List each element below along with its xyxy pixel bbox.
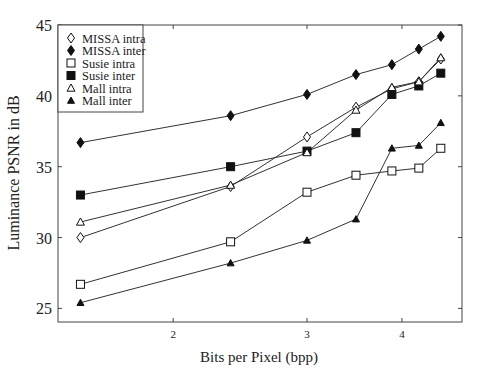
square-marker-icon <box>67 72 75 80</box>
square-marker-icon <box>352 171 360 179</box>
diamond-marker-icon <box>77 138 84 148</box>
x-tick-label: 4 <box>399 328 405 340</box>
series-mall-inter <box>81 123 441 303</box>
x-axis: 234 <box>170 25 405 340</box>
diamond-marker-icon <box>415 44 422 54</box>
legend-label: Mall inter <box>82 94 132 108</box>
square-marker-icon <box>352 129 360 137</box>
square-marker-icon <box>76 191 84 199</box>
y-axis-label: Luminance PSNR in dB <box>5 95 22 250</box>
diamond-marker-icon <box>304 132 311 142</box>
diamond-marker-icon <box>388 60 395 70</box>
square-marker-icon <box>76 280 84 288</box>
diamond-marker-icon <box>304 89 311 99</box>
x-axis-label: Bits per Pixel (bpp) <box>200 349 318 366</box>
x-tick-label: 2 <box>170 328 176 340</box>
square-marker-icon <box>303 188 311 196</box>
x-tick-label: 3 <box>304 328 310 340</box>
square-marker-icon <box>437 69 445 77</box>
square-marker-icon <box>388 167 396 175</box>
psnr-line-chart: 2530354045 234 Luminance PSNR in dB Bits… <box>0 0 479 380</box>
y-tick-label: 45 <box>36 17 52 34</box>
y-tick-label: 30 <box>36 230 52 247</box>
diamond-marker-icon <box>352 70 359 80</box>
square-marker-icon <box>437 144 445 152</box>
y-tick-label: 25 <box>36 300 52 317</box>
triangle-marker-icon <box>304 237 311 243</box>
diamond-marker-icon <box>437 31 444 41</box>
y-tick-label: 35 <box>36 159 52 176</box>
triangle-marker-icon <box>437 119 444 125</box>
square-marker-icon <box>415 164 423 172</box>
square-marker-icon <box>388 90 396 98</box>
square-marker-icon <box>227 238 235 246</box>
y-tick-label: 40 <box>36 88 52 105</box>
square-marker-icon <box>227 163 235 171</box>
square-marker-icon <box>67 59 75 67</box>
series-susie-intra <box>81 148 441 284</box>
legend: MISSA intraMISSA interSusie intraSusie i… <box>58 25 146 112</box>
markers <box>77 119 444 305</box>
triangle-marker-icon <box>352 216 359 222</box>
markers <box>76 144 444 288</box>
diamond-marker-icon <box>227 111 234 121</box>
diamond-marker-icon <box>77 233 84 243</box>
